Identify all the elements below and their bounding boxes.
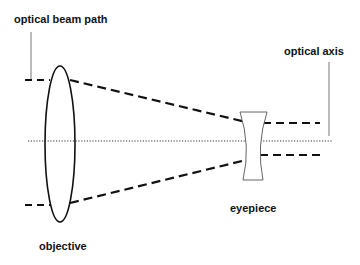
beam-bottom-converging [70, 160, 246, 203]
optical-axis-label: optical axis [284, 46, 344, 57]
objective-lens [45, 66, 75, 222]
beam-top-converging [70, 80, 246, 122]
beam-path-label: optical beam path [14, 14, 108, 25]
optical-diagram [0, 0, 360, 265]
eyepiece-label: eyepiece [230, 203, 276, 214]
eyepiece-lens [240, 112, 267, 180]
objective-label: objective [39, 241, 87, 252]
